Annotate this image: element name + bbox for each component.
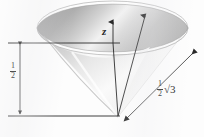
height-denominator: 2: [10, 72, 16, 80]
figure-canvas: [0, 0, 204, 137]
cone-solid: [37, 1, 188, 117]
slant-radical: √3: [164, 83, 176, 95]
cone-figure: z 1 2 1 2 √3: [0, 0, 204, 137]
cone-inner-surface: [37, 4, 188, 52]
height-dimension-label: 1 2: [10, 62, 16, 80]
z-axis-label: z: [102, 26, 106, 37]
slant-denominator: 2: [157, 90, 163, 98]
slant-fraction: 1 2: [157, 80, 163, 98]
slant-dimension-label: 1 2 √3: [157, 80, 176, 98]
height-fraction: 1 2: [10, 62, 16, 80]
